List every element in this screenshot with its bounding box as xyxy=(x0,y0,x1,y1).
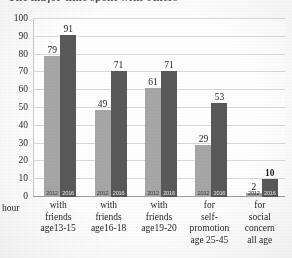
y-tick-label: 10 xyxy=(2,174,28,183)
bar-group: 492012712016 xyxy=(95,19,127,197)
chart-title-text: The major time spent with others xyxy=(8,0,288,3)
bar-year-label: 2012 xyxy=(95,190,111,196)
bar-group: 612012712016 xyxy=(145,19,177,197)
bar-group: 292012532016 xyxy=(195,19,227,197)
category-label-line: all age xyxy=(229,235,291,247)
bar-year-label: 2016 xyxy=(161,190,177,196)
bar-2016-2[interactable] xyxy=(111,71,127,197)
bar-year-label: 2012 xyxy=(195,190,211,196)
bar-2012-1[interactable] xyxy=(44,56,60,197)
y-tick-label: 100 xyxy=(2,14,28,23)
y-tick-label: 90 xyxy=(2,32,28,41)
bar-2016-4[interactable] xyxy=(211,103,227,197)
y-tick-label: 60 xyxy=(2,85,28,94)
bar-year-label: 2012 xyxy=(145,190,161,196)
bar-year-label: 2016 xyxy=(262,190,278,196)
x-axis-category-labels: withfriendsage13-15withfriendsage16-18wi… xyxy=(33,200,285,258)
bar-value-label: 10 xyxy=(253,168,287,178)
y-tick-label: 40 xyxy=(2,121,28,130)
bar-value-label: 53 xyxy=(202,92,236,102)
bar-year-label: 2016 xyxy=(60,190,76,196)
bar-year-label: 2016 xyxy=(211,190,227,196)
bar-2016-1[interactable] xyxy=(60,35,76,197)
bar-value-label: 71 xyxy=(152,60,186,70)
category-label-line: for xyxy=(229,200,291,212)
bar-value-label: 91 xyxy=(51,24,85,34)
y-tick-label: 0 xyxy=(2,192,28,201)
bar-2012-2[interactable] xyxy=(95,110,111,197)
category-label: forsocialconcernall age xyxy=(229,200,291,246)
y-tick-label: 80 xyxy=(2,50,28,59)
bar-group: 22012102016 xyxy=(246,19,278,197)
plot-area: 7920129120164920127120166120127120162920… xyxy=(33,19,285,197)
chart-title-clipped: The major time spent with others xyxy=(8,0,288,3)
bar-value-label: 71 xyxy=(102,60,136,70)
y-tick-label: 20 xyxy=(2,156,28,165)
y-axis-tick-labels: 0102030405060708090100 xyxy=(0,19,30,197)
bar-group: 792012912016 xyxy=(44,19,76,197)
bar-year-label: 2016 xyxy=(111,190,127,196)
y-axis-unit-label: hour xyxy=(2,203,19,213)
y-tick-label: 30 xyxy=(2,139,28,148)
category-label-line: social xyxy=(229,212,291,224)
y-tick-label: 50 xyxy=(2,103,28,112)
bar-year-label: 2012 xyxy=(246,190,262,196)
y-tick-label: 70 xyxy=(2,67,28,76)
chart-page: The major time spent with others 0102030… xyxy=(0,0,292,258)
y-axis-line xyxy=(33,19,34,197)
category-label-line: concern xyxy=(229,223,291,235)
bar-year-label: 2012 xyxy=(44,190,60,196)
bar-2016-3[interactable] xyxy=(161,71,177,197)
bar-2012-3[interactable] xyxy=(145,88,161,197)
